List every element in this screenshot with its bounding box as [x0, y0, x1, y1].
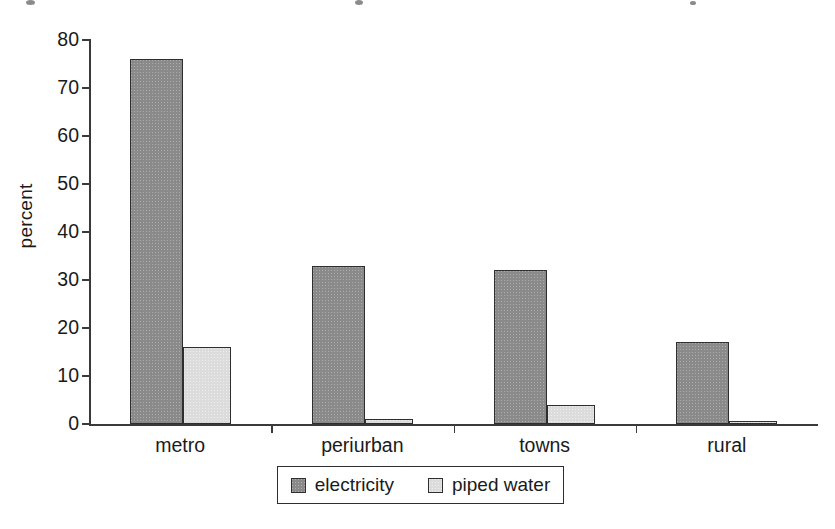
scan-artifact — [26, 0, 35, 5]
y-axis-tick-mark — [82, 87, 89, 89]
bar-towns-electricity — [494, 270, 547, 424]
bar-rural-piped-water — [729, 421, 777, 424]
legend-entry-piped-water: piped water — [428, 474, 550, 496]
y-axis-tick-mark — [82, 327, 89, 329]
y-axis-tick-mark — [82, 183, 89, 185]
y-axis-tick-mark — [82, 375, 89, 377]
bar-metro-piped-water — [183, 347, 231, 424]
legend-swatch-piped-water — [428, 478, 443, 493]
y-axis-tick-label: 50 — [33, 174, 79, 194]
y-axis-tick-label: 60 — [33, 126, 79, 146]
y-axis-tick-label: 30 — [33, 270, 79, 290]
bar-towns-piped-water — [547, 405, 595, 424]
y-axis-tick-mark — [82, 279, 89, 281]
y-axis-tick-label: 40 — [33, 222, 79, 242]
bar-chart: percent 80706050403020100 metroperiurban… — [0, 0, 835, 529]
legend-swatch-electricity — [291, 478, 306, 493]
y-axis-tick-mark — [82, 39, 89, 41]
x-axis-label-towns: towns — [454, 434, 636, 457]
y-axis-tick-label: 80 — [33, 30, 79, 50]
bar-periurban-electricity — [312, 266, 365, 424]
x-axis-separator-tick — [636, 425, 638, 433]
y-axis-tick-label: 10 — [33, 366, 79, 386]
bar-rural-electricity — [676, 342, 729, 424]
scan-artifact — [355, 0, 363, 5]
x-axis-label-metro: metro — [89, 434, 271, 457]
y-axis-tick-mark — [82, 231, 89, 233]
legend-label: electricity — [315, 474, 394, 496]
scan-artifact — [690, 1, 696, 5]
y-axis-tick-mark — [82, 135, 89, 137]
x-axis-separator-tick — [454, 425, 456, 433]
y-axis-tick-label: 70 — [33, 78, 79, 98]
bar-periurban-piped-water — [365, 419, 413, 424]
x-axis-separator-tick — [271, 425, 273, 433]
legend-label: piped water — [452, 474, 550, 496]
x-axis-label-periurban: periurban — [271, 434, 453, 457]
legend-entry-electricity: electricity — [291, 474, 394, 496]
y-axis-line — [89, 39, 91, 426]
x-axis-label-rural: rural — [636, 434, 818, 457]
y-axis-tick-label: 20 — [33, 318, 79, 338]
bar-metro-electricity — [130, 59, 183, 424]
chart-legend: electricitypiped water — [277, 466, 564, 504]
y-axis-tick-label: 0 — [33, 414, 79, 434]
y-axis-tick-mark — [82, 423, 89, 425]
